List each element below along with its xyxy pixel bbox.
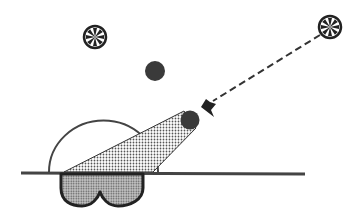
dark-ball: [145, 61, 165, 81]
star-icon-left: [84, 26, 106, 48]
light-ray-dashed-arrow: [201, 35, 320, 117]
view-cone: [64, 111, 196, 172]
star-icon-right: [319, 16, 341, 38]
cone-tip-ball: [181, 111, 200, 130]
goggles-icon: [61, 174, 143, 206]
diagram-canvas: [0, 0, 362, 218]
diagram-svg: [0, 0, 362, 218]
